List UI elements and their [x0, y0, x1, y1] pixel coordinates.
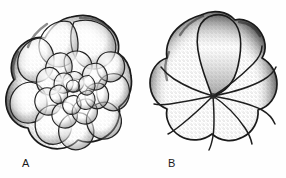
figure-b-umbilicus [210, 93, 216, 99]
figure-a-foraminifera-spiral-view [0, 0, 143, 178]
figure-b-drawing [143, 0, 286, 178]
figure-a-proloculus [67, 80, 80, 92]
figure-a-label: A [22, 158, 30, 169]
figure-b-foraminifera-umbilical-view [143, 0, 286, 178]
figure-b-label: B [168, 158, 176, 169]
chamber-inner-6 [78, 75, 95, 95]
figure-a-drawing [0, 0, 143, 178]
illustration-plate: A B [0, 0, 286, 178]
